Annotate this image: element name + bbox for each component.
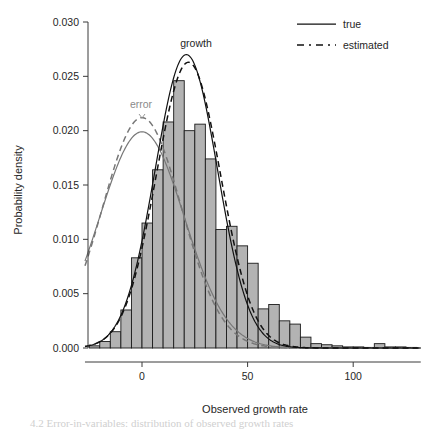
x-axis-tick-label: 100 bbox=[344, 370, 362, 382]
y-axis-tick-label: 0.000 bbox=[53, 342, 79, 354]
y-axis-tick-label: 0.025 bbox=[53, 70, 79, 82]
x-axis-tick-label: 50 bbox=[242, 370, 254, 382]
histogram-bar bbox=[121, 310, 132, 348]
histogram-bar bbox=[195, 124, 206, 348]
histogram-bar bbox=[153, 170, 164, 348]
y-axis-tick-label: 0.020 bbox=[53, 124, 79, 136]
x-axis-title: Observed growth rate bbox=[202, 403, 308, 415]
histogram-bar bbox=[248, 263, 259, 348]
histogram-bar bbox=[163, 122, 174, 348]
y-axis-tick-label: 0.015 bbox=[53, 179, 79, 191]
histogram-bar bbox=[89, 346, 100, 348]
y-axis-tick-label: 0.005 bbox=[53, 287, 79, 299]
annotation-growth: growth bbox=[180, 37, 212, 49]
histogram-bar bbox=[184, 131, 195, 348]
bottom-caption-fragment: 4.2 Error-in-variables: distribution of … bbox=[30, 417, 293, 429]
probability-density-chart: 0.0000.0050.0100.0150.0200.0250.030 0501… bbox=[0, 0, 443, 430]
histogram-bar bbox=[216, 230, 227, 348]
histogram-bar bbox=[131, 258, 142, 348]
legend-label-true: true bbox=[343, 18, 361, 30]
annotation-growth-label: growth bbox=[180, 37, 212, 49]
figure-container: 0.0000.0050.0100.0150.0200.0250.030 0501… bbox=[0, 0, 443, 430]
y-axis-title: Probability density bbox=[12, 145, 24, 235]
histogram-bar bbox=[110, 332, 121, 348]
histogram-bar bbox=[174, 81, 185, 348]
y-axis-tick-label: 0.030 bbox=[53, 16, 79, 28]
histogram-bar bbox=[142, 223, 153, 348]
chart-background bbox=[0, 0, 443, 430]
histogram-bar bbox=[205, 159, 216, 348]
x-axis-tick-label: 0 bbox=[139, 370, 145, 382]
histogram-bar bbox=[300, 337, 311, 348]
histogram-bar bbox=[290, 324, 301, 348]
histogram-bar bbox=[279, 321, 290, 348]
histogram-bar bbox=[100, 341, 111, 348]
annotation-error-label: error bbox=[130, 98, 153, 110]
legend-label-estimated: estimated bbox=[343, 39, 389, 51]
y-axis-tick-label: 0.010 bbox=[53, 233, 79, 245]
